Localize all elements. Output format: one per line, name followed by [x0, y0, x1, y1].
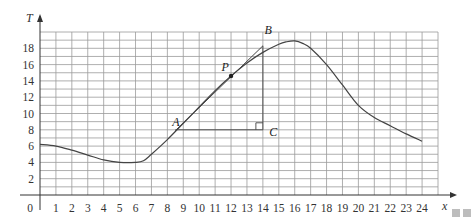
x-tick-label: 20	[353, 202, 365, 214]
x-tick-label: 13	[241, 202, 253, 214]
x-tick-label: 10	[193, 202, 205, 214]
x-tick-label: 0	[27, 202, 33, 214]
x-axis-label: x	[441, 199, 448, 213]
x-tick-label: 14	[257, 202, 269, 214]
point-b-label: B	[264, 23, 272, 37]
tangent-segment-ab	[175, 46, 263, 131]
corner-marker-left	[452, 209, 460, 217]
point-p-marker	[229, 74, 233, 78]
x-tick-label: 8	[164, 202, 170, 214]
x-axis-arrow-icon	[450, 192, 457, 198]
x-tick-label: 9	[180, 202, 186, 214]
x-tick-label: 18	[321, 202, 333, 214]
x-tick-label: 12	[225, 202, 237, 214]
x-tick-label: 7	[149, 202, 155, 214]
point-c-label: C	[269, 125, 278, 139]
y-tick-label: 2	[28, 173, 34, 185]
y-axis-arrow-icon	[37, 14, 43, 22]
x-tick-label: 15	[273, 202, 285, 214]
grid	[40, 32, 438, 195]
y-tick-label: 10	[23, 108, 35, 120]
right-angle-icon	[256, 123, 263, 130]
chart: 0123456789101112131415161718192021222324…	[0, 0, 475, 222]
x-tick-label: 4	[101, 202, 107, 214]
x-tick-label: 17	[305, 202, 317, 214]
corner-marker-right	[463, 209, 471, 217]
point-a-label: A	[171, 115, 180, 129]
point-p-label: P	[220, 60, 229, 74]
x-tick-label: 19	[337, 202, 349, 214]
y-tick-label: 8	[28, 124, 34, 136]
x-tick-label: 6	[133, 202, 139, 214]
x-tick-label: 1	[53, 202, 59, 214]
y-tick-label: 14	[23, 75, 35, 87]
x-tick-label: 23	[400, 202, 412, 214]
x-tick-labels: 0123456789101112131415161718192021222324	[27, 202, 428, 214]
x-tick-label: 16	[289, 202, 301, 214]
x-tick-label: 5	[117, 202, 123, 214]
y-tick-labels: 24681012141618	[23, 42, 35, 184]
y-tick-label: 16	[23, 59, 35, 71]
tangent-line	[175, 46, 263, 131]
axes	[20, 14, 457, 210]
x-tick-label: 2	[69, 202, 75, 214]
y-tick-label: 6	[28, 140, 34, 152]
x-tick-label: 3	[85, 202, 91, 214]
x-tick-label: 21	[369, 202, 381, 214]
y-tick-label: 12	[23, 91, 35, 103]
y-tick-label: 18	[23, 42, 35, 54]
x-tick-label: 11	[210, 202, 221, 214]
x-tick-label: 22	[384, 202, 396, 214]
y-axis-label: T	[26, 11, 34, 25]
y-tick-label: 4	[28, 156, 34, 168]
x-tick-label: 24	[416, 202, 428, 214]
